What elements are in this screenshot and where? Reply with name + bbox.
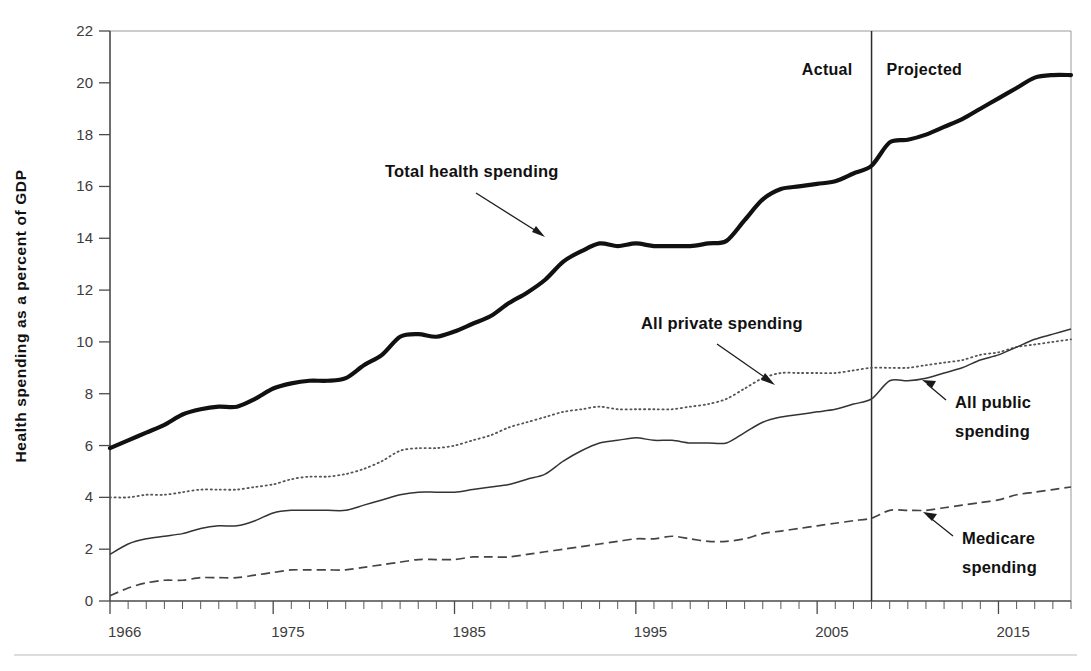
annotation-label-public-line2: spending (955, 422, 1030, 440)
annotation-all-private-spending: All private spending (641, 314, 803, 385)
y-tick-label: 22 (76, 22, 93, 39)
series-medicare-spending (110, 487, 1071, 596)
series-all-private-spending (110, 339, 1071, 497)
series-all-public-spending (110, 329, 1071, 554)
annotation-total-health-spending: Total health spending (385, 162, 558, 237)
x-tick-label: 2005 (815, 623, 848, 640)
x-tick-label: 1966 (108, 623, 141, 640)
projected-period-label: Projected (887, 61, 963, 78)
x-axis: 196619751985199520052015 (108, 601, 1071, 640)
y-tick-label: 8 (85, 385, 93, 402)
y-axis-title: Health spending as a percent of GDP (12, 169, 29, 462)
chart-figure: 0246810121416182022 19661975198519952005… (0, 0, 1091, 671)
y-tick-label: 0 (85, 592, 93, 609)
x-tick-label: 1995 (634, 623, 667, 640)
y-tick-label: 10 (76, 333, 93, 350)
y-tick-label: 18 (76, 126, 93, 143)
annotation-label-public-line1: All public (955, 393, 1031, 411)
y-tick-label: 2 (85, 540, 93, 557)
y-tick-label: 12 (76, 281, 93, 298)
annotation-label-medicare-line1: Medicare (962, 529, 1035, 547)
arrow-head-icon (923, 512, 937, 521)
y-tick-label: 4 (85, 488, 93, 505)
x-tick-label: 1975 (271, 623, 304, 640)
data-series-group (110, 75, 1071, 596)
x-tick-label: 2015 (996, 623, 1029, 640)
series-total-health-spending (110, 75, 1071, 448)
annotation-label-total: Total health spending (385, 162, 558, 180)
y-tick-label: 6 (85, 437, 93, 454)
y-tick-label: 20 (76, 74, 93, 91)
arrow-head-icon (761, 373, 775, 385)
annotation-medicare-spending: Medicare spending (923, 512, 1037, 576)
health-spending-line-chart: 0246810121416182022 19661975198519952005… (0, 0, 1091, 671)
arrow-head-icon (922, 380, 936, 388)
actual-period-label: Actual (802, 61, 853, 78)
annotation-label-medicare-line2: spending (962, 558, 1037, 576)
arrow-head-icon (532, 226, 545, 237)
y-tick-label: 16 (76, 177, 93, 194)
y-axis: 0246810121416182022 (76, 22, 110, 609)
x-tick-label: 1985 (453, 623, 486, 640)
annotation-all-public-spending: All public spending (922, 380, 1031, 440)
y-tick-label: 14 (76, 229, 93, 246)
annotation-label-private: All private spending (641, 314, 803, 332)
